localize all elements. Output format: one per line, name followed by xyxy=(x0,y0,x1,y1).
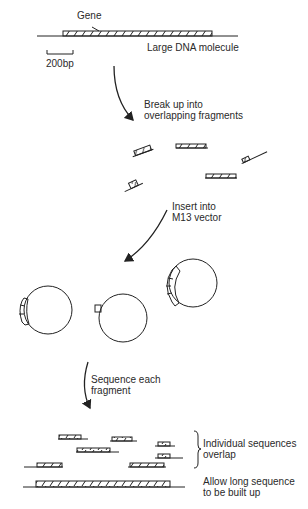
scale-bar xyxy=(47,50,73,54)
sequencing-diagram xyxy=(0,0,308,509)
step-1-label: Break up into overlapping fragments xyxy=(144,99,243,121)
large-dna-molecule xyxy=(37,27,238,36)
step-2-label: Insert into M13 vector xyxy=(172,201,221,223)
sequence-reads xyxy=(24,435,183,467)
arrow-insert xyxy=(125,210,167,261)
overlap-brace xyxy=(194,431,201,468)
overlap-label: Individual sequences overlap xyxy=(203,438,296,460)
arrow-break-up xyxy=(114,66,133,120)
gene-label: Gene xyxy=(77,10,101,21)
step-3-label: Sequence each fragment xyxy=(91,374,161,396)
gene-pointer xyxy=(92,27,99,31)
fragments xyxy=(122,144,267,192)
scale-label: 200bp xyxy=(46,58,74,69)
assembly-label: Allow long sequence to be built up xyxy=(203,476,295,498)
assembled-sequence xyxy=(23,481,185,487)
m13-vectors xyxy=(19,259,217,342)
dna-label: Large DNA molecule xyxy=(147,42,239,53)
arrow-sequence xyxy=(84,362,90,408)
